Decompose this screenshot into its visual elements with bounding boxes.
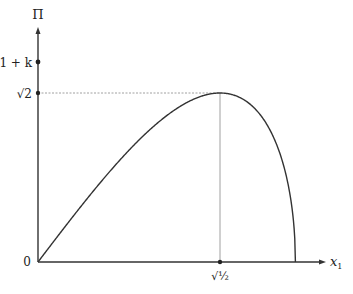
origin-label: 0 <box>23 255 31 269</box>
tick-label-1k: 1 + k <box>0 56 33 70</box>
y-axis-arrow-icon <box>36 27 41 34</box>
chart-canvas: Π 1 + k √2 0 √½ x1 <box>0 0 353 294</box>
tick-dot-1k <box>36 60 41 65</box>
tick-dot-sqrthalf <box>218 260 222 264</box>
tick-dot-sqrt2 <box>36 91 40 95</box>
profit-curve <box>38 93 295 262</box>
y-axis-label: Π <box>32 7 43 22</box>
x-axis-arrow-icon <box>319 260 326 265</box>
tick-label-sqrt2: √2 <box>17 87 32 101</box>
tick-label-sqrthalf: √½ <box>211 270 229 283</box>
x-axis-label: x1 <box>330 254 342 271</box>
